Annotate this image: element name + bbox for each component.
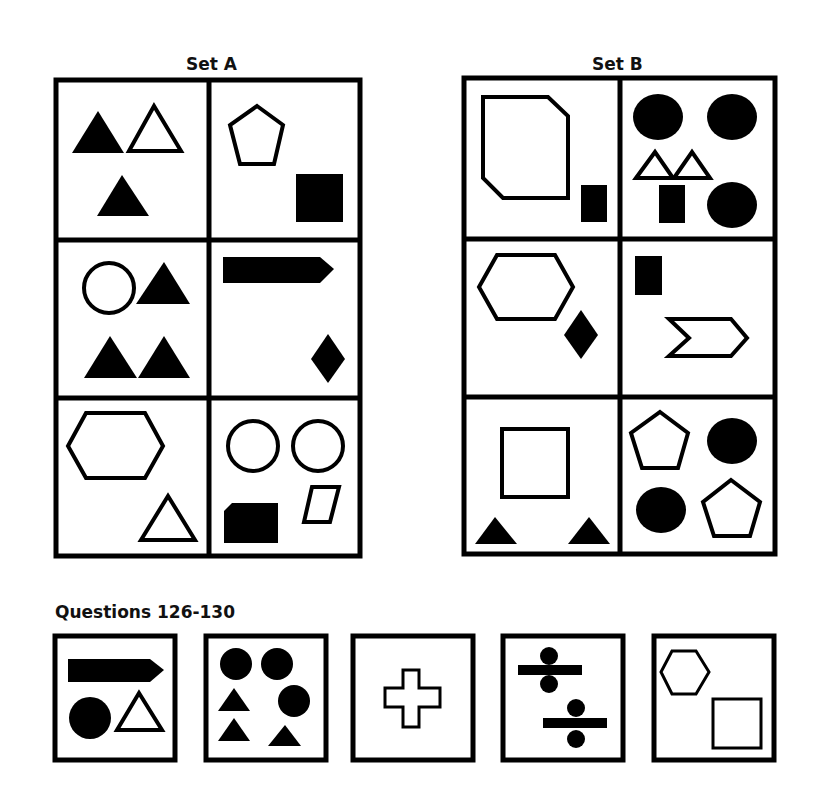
hexagon-icon: [661, 651, 709, 694]
cut-corner-polygon-icon: [483, 97, 568, 198]
diamond-icon: [311, 334, 345, 383]
square-icon: [502, 429, 568, 497]
triangle-icon: [84, 336, 137, 378]
triangle-icon: [141, 496, 195, 540]
diamond-icon: [564, 310, 598, 359]
set-b-panel-6: [631, 412, 760, 536]
question-box-128: [353, 636, 473, 760]
cross-icon: [385, 670, 440, 727]
circle-icon: [220, 648, 252, 680]
triangle-icon: [218, 718, 250, 741]
set-b-panel-4: [635, 256, 747, 356]
chevron-icon: [669, 319, 747, 356]
pentagon-icon: [631, 412, 688, 468]
set-b-panel-3: [479, 255, 598, 359]
circle-icon: [293, 421, 343, 471]
question-box-126: [55, 636, 175, 760]
circle-icon: [69, 697, 111, 739]
question-126: [68, 659, 164, 739]
circle-icon: [278, 685, 310, 717]
set-b-panel-5: [475, 429, 610, 544]
dot-icon: [567, 730, 585, 748]
set-a-panel-4: [223, 257, 345, 383]
circle-icon: [228, 421, 278, 471]
dot-icon: [540, 647, 558, 665]
question-127: [218, 648, 310, 746]
circle-icon: [84, 263, 134, 313]
set-a-panel-1: [72, 106, 181, 216]
set-b-panel-1: [483, 97, 607, 222]
set-a-panel-3: [84, 262, 190, 378]
triangle-icon: [136, 262, 190, 304]
arrow-bar-icon: [223, 257, 334, 283]
triangle-icon: [568, 517, 610, 544]
circle-icon: [261, 648, 293, 680]
bar-icon: [543, 718, 607, 728]
circle-icon: [707, 182, 757, 228]
cut-square-icon: [224, 503, 278, 543]
square-icon: [713, 699, 761, 748]
circle-icon: [707, 94, 757, 140]
square-icon: [296, 174, 343, 222]
hexagon-icon: [479, 255, 573, 319]
triangle-icon: [138, 336, 190, 378]
triangle-icon: [129, 106, 181, 151]
triangle-icon: [218, 688, 250, 711]
hexagon-icon: [68, 413, 163, 478]
circle-icon: [636, 487, 686, 533]
dot-icon: [540, 675, 558, 693]
rectangle-icon: [659, 185, 685, 223]
arrow-bar-icon: [68, 659, 164, 682]
triangle-icon: [97, 175, 149, 216]
rectangle-icon: [581, 185, 607, 222]
triangle-icon: [72, 111, 124, 153]
pentagon-icon: [230, 106, 283, 164]
rectangle-icon: [635, 256, 662, 295]
bar-icon: [518, 665, 582, 675]
set-a-panel-6: [224, 421, 343, 543]
pentagon-icon: [703, 480, 760, 536]
set-a-panel-2: [230, 106, 343, 222]
question-129: [518, 647, 607, 748]
question-130: [661, 651, 761, 748]
parallelogram-icon: [304, 487, 339, 522]
puzzle-diagram: [0, 0, 825, 785]
question-128: [385, 670, 440, 727]
set-a-panel-5: [68, 413, 195, 540]
triangle-icon: [636, 152, 673, 178]
circle-icon: [633, 94, 683, 140]
set-b-panel-2: [633, 94, 757, 228]
triangle-icon: [268, 725, 301, 746]
question-box-129: [503, 636, 623, 760]
triangle-icon: [475, 517, 517, 544]
triangle-icon: [117, 693, 162, 730]
triangle-icon: [674, 152, 710, 178]
dot-icon: [567, 699, 585, 717]
circle-icon: [707, 418, 757, 464]
